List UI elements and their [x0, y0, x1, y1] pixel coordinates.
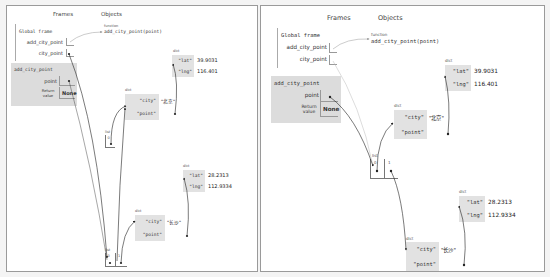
pointer-arrows: [7, 6, 259, 273]
left-visualization-panel: Frames Objects Global frame add_city_poi…: [6, 5, 258, 272]
pointer-arrows: [261, 6, 546, 273]
right-visualization-panel: Frames Objects Global frame add_city_poi…: [260, 5, 545, 272]
